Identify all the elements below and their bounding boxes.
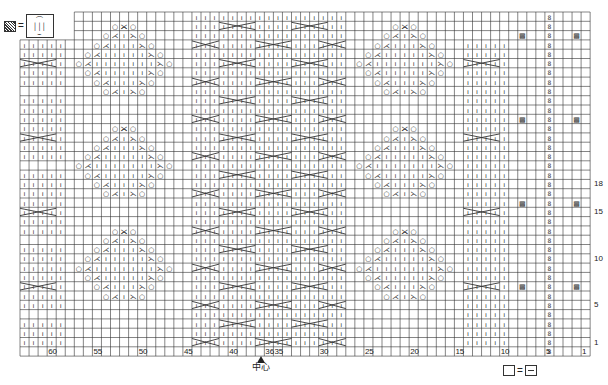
svg-text:ı: ı	[467, 162, 469, 170]
svg-text:○: ○	[85, 172, 91, 180]
svg-text:ı: ı	[223, 190, 225, 198]
svg-text:ı: ı	[422, 162, 424, 170]
svg-text:ı: ı	[259, 125, 261, 133]
svg-text:ı: ı	[386, 172, 388, 180]
svg-text:ı: ı	[322, 209, 324, 217]
svg-text:○: ○	[438, 172, 444, 180]
svg-text:ı: ı	[205, 69, 207, 77]
svg-text:ı: ı	[268, 274, 270, 282]
svg-text:ı: ı	[286, 209, 288, 217]
svg-text:○: ○	[365, 274, 371, 282]
svg-text:ı: ı	[304, 88, 306, 96]
svg-text:ı: ı	[223, 162, 225, 170]
svg-text:ı: ı	[205, 14, 207, 22]
svg-text:ı: ı	[205, 181, 207, 189]
svg-text:⋋: ⋋	[410, 135, 417, 143]
svg-text:ı: ı	[322, 97, 324, 105]
svg-text:ı: ı	[494, 200, 496, 208]
svg-text:ı: ı	[268, 14, 270, 22]
svg-text:ı: ı	[331, 153, 333, 161]
svg-text:ı: ı	[259, 321, 261, 329]
svg-text:○: ○	[365, 153, 371, 161]
svg-text:ı: ı	[268, 172, 270, 180]
svg-text:ı: ı	[503, 209, 505, 217]
svg-text:ı: ı	[123, 255, 125, 263]
svg-text:○: ○	[112, 228, 118, 236]
svg-text:⋌: ⋌	[374, 255, 381, 263]
svg-text:ı: ı	[232, 265, 234, 273]
svg-text:ı: ı	[494, 116, 496, 124]
svg-text:ı: ı	[304, 339, 306, 347]
svg-text:ı: ı	[313, 274, 315, 282]
svg-text:ı: ı	[60, 125, 62, 133]
svg-text:ı: ı	[295, 246, 297, 254]
svg-text:ı: ı	[195, 200, 197, 208]
svg-text:ı: ı	[322, 144, 324, 152]
svg-text:ı: ı	[214, 107, 216, 115]
svg-text:ı: ı	[141, 153, 143, 161]
svg-text:ı: ı	[503, 274, 505, 282]
svg-text:ı: ı	[259, 274, 261, 282]
svg-text:ı: ı	[195, 69, 197, 77]
svg-text:○: ○	[438, 255, 444, 263]
svg-text:ı: ı	[295, 200, 297, 208]
svg-text:ı: ı	[313, 237, 315, 245]
svg-text:ı: ı	[494, 88, 496, 96]
svg-text:ı: ı	[214, 60, 216, 68]
svg-text:ı: ı	[51, 246, 53, 254]
svg-text:ı: ı	[494, 172, 496, 180]
svg-text:▩: ▩	[573, 200, 580, 208]
svg-text:ı: ı	[96, 60, 98, 68]
svg-text:ı: ı	[494, 97, 496, 105]
svg-text:ı: ı	[295, 153, 297, 161]
svg-text:ı: ı	[205, 200, 207, 208]
svg-text:ı: ı	[322, 69, 324, 77]
svg-text:ı: ı	[250, 172, 252, 180]
svg-text:ı: ı	[340, 23, 342, 31]
svg-text:○: ○	[139, 88, 145, 96]
svg-text:ı: ı	[340, 162, 342, 170]
svg-text:8: 8	[548, 107, 552, 114]
svg-text:ı: ı	[404, 79, 406, 87]
center-label: 中心	[252, 363, 270, 372]
svg-text:ı: ı	[494, 237, 496, 245]
svg-text:○: ○	[374, 79, 380, 87]
svg-text:ı: ı	[60, 302, 62, 310]
svg-text:ı: ı	[24, 181, 26, 189]
svg-text:ı: ı	[205, 265, 207, 273]
svg-text:ı: ı	[250, 69, 252, 77]
svg-text:ı: ı	[241, 228, 243, 236]
svg-text:ı: ı	[195, 97, 197, 105]
svg-text:ı: ı	[277, 181, 279, 189]
svg-text:ı: ı	[340, 60, 342, 68]
svg-text:⋌: ⋌	[93, 274, 100, 282]
svg-text:ı: ı	[494, 265, 496, 273]
svg-text:ı: ı	[277, 107, 279, 115]
svg-text:ı: ı	[241, 200, 243, 208]
svg-text:⋌: ⋌	[383, 246, 390, 254]
svg-text:ı: ı	[277, 23, 279, 31]
legend-purl: =	[503, 365, 537, 376]
svg-text:○: ○	[139, 135, 145, 143]
svg-text:ı: ı	[413, 60, 415, 68]
svg-text:○: ○	[130, 125, 136, 133]
svg-text:ı: ı	[331, 190, 333, 198]
column-label: 30	[320, 348, 329, 356]
svg-text:ı: ı	[331, 330, 333, 338]
svg-text:ı: ı	[60, 190, 62, 198]
svg-text:ı: ı	[241, 42, 243, 50]
svg-text:ı: ı	[277, 135, 279, 143]
svg-text:ı: ı	[313, 311, 315, 319]
svg-text:ı: ı	[395, 255, 397, 263]
svg-text:ı: ı	[96, 265, 98, 273]
svg-text:ı: ı	[42, 181, 44, 189]
svg-text:ı: ı	[395, 274, 397, 282]
svg-text:ı: ı	[286, 107, 288, 115]
svg-text:ı: ı	[250, 23, 252, 31]
svg-text:ı: ı	[205, 162, 207, 170]
svg-text:ı: ı	[304, 79, 306, 87]
svg-text:ı: ı	[395, 42, 397, 50]
svg-text:⋌: ⋌	[392, 32, 399, 40]
svg-text:ı: ı	[214, 218, 216, 226]
svg-text:⋋: ⋋	[121, 23, 128, 31]
